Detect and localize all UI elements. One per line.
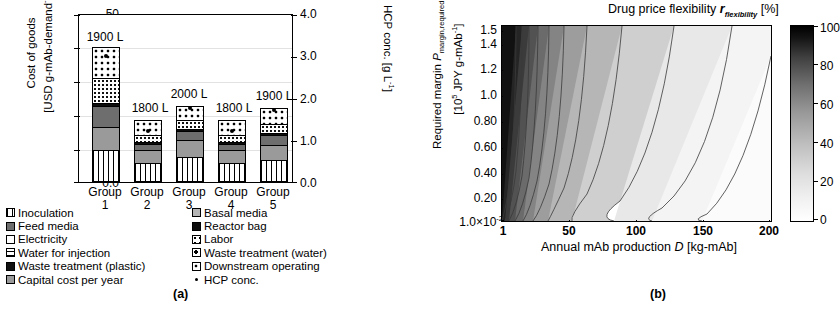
bar-4-segment-reactor-bag bbox=[219, 143, 245, 145]
legend-item-basal-media[interactable]: Basal media bbox=[192, 206, 406, 219]
bar-5-segment-inoculation bbox=[261, 161, 287, 181]
legend-label-waste-treatment-plastic: Waste treatment (plastic) bbox=[18, 260, 145, 272]
colorbar-tick-0: 0 bbox=[820, 213, 827, 227]
panel-b-caption: (b) bbox=[650, 287, 666, 301]
legend-item-waste-treatment-plastic[interactable]: Waste treatment (plastic) bbox=[6, 260, 192, 273]
panel-b-plot-area bbox=[501, 25, 772, 222]
legend-swatch-feed-media bbox=[6, 222, 15, 231]
panel-a-legend: Inoculation Basal media Feed media React… bbox=[6, 206, 406, 286]
title-subscript: flexibility bbox=[725, 10, 758, 19]
bar-1-segment-reactor-bag bbox=[93, 104, 119, 107]
bar-2-segment-inoculation bbox=[135, 164, 161, 181]
bar-annotation-group-3: 2000 L bbox=[171, 87, 208, 101]
legend-item-hcp-conc[interactable]: HCP conc. bbox=[192, 273, 406, 286]
bar-2-segment-feed-media bbox=[135, 145, 161, 151]
bar-3-segment-inoculation bbox=[177, 158, 203, 181]
bar-4-segment-electricity bbox=[219, 136, 245, 143]
b-x-tick-150: 150 bbox=[693, 224, 713, 238]
bar-3-segment-feed-media bbox=[177, 132, 203, 141]
y-tick-right-0: 0.0 bbox=[300, 176, 340, 190]
bar-group-3[interactable] bbox=[176, 106, 204, 182]
legend-label-labor: Labor bbox=[204, 233, 233, 245]
contour-field bbox=[502, 26, 771, 221]
panel-a-caption: (a) bbox=[173, 287, 188, 301]
bar-1-segment-electricity bbox=[93, 79, 119, 104]
bar-3-segment-reactor-bag bbox=[177, 130, 203, 132]
bar-5-segment-feed-media bbox=[261, 136, 287, 146]
legend-label-capital-cost: Capital cost per year bbox=[18, 274, 123, 286]
bar-1-segment-inoculation bbox=[93, 151, 119, 181]
legend-swatch-capital-cost bbox=[6, 275, 15, 284]
bar-annotation-group-1: 1900 L bbox=[87, 30, 124, 44]
y-tick-right-1: 1.0 bbox=[300, 134, 340, 148]
legend-item-electricity[interactable]: Electricity bbox=[6, 233, 192, 246]
legend-item-labor[interactable]: Labor bbox=[192, 233, 406, 246]
bar-group-1[interactable] bbox=[92, 47, 120, 182]
legend-label-hcp-conc: HCP conc. bbox=[204, 274, 259, 286]
bar-annotation-group-5: 1900 L bbox=[256, 89, 293, 103]
panel-b-contour-chart: Drug price flexibility rflexibility [%] … bbox=[420, 0, 837, 314]
colorbar-tick-40: 40 bbox=[820, 137, 833, 151]
y-axis-left-exponent: -1 bbox=[40, 0, 49, 3]
panel-b-title: Drug price flexibility rflexibility [%] bbox=[608, 2, 779, 19]
legend-label-waste-treatment-water: Waste treatment (water) bbox=[204, 247, 327, 259]
panel-a-y-axis-label-left: Cost of goods [USD g-mAb-demand-1] bbox=[25, 0, 55, 123]
legend-item-feed-media[interactable]: Feed media bbox=[6, 219, 192, 232]
legend-item-waste-treatment-water[interactable]: Waste treatment (water) bbox=[192, 246, 406, 259]
legend-label-basal-media: Basal media bbox=[204, 207, 267, 219]
colorbar-tick-60: 60 bbox=[820, 98, 833, 112]
y-tick-right-4: 4.0 bbox=[300, 7, 340, 21]
legend-label-downstream-operating: Downstream operating bbox=[204, 260, 320, 272]
legend-swatch-electricity bbox=[6, 235, 15, 244]
legend-item-capital-cost[interactable]: Capital cost per year bbox=[6, 273, 192, 286]
y-tick-right-2: 2.0 bbox=[300, 92, 340, 106]
bar-annotation-group-4: 1800 L bbox=[216, 101, 253, 115]
legend-swatch-downstream-operating bbox=[192, 262, 201, 271]
legend-item-water-for-injection[interactable]: Water for injection bbox=[6, 246, 192, 259]
legend-item-reactor-bag[interactable]: Reactor bag bbox=[192, 219, 406, 232]
b-x-tick-50: 50 bbox=[562, 224, 575, 238]
colorbar-tick-80: 80 bbox=[820, 59, 833, 73]
legend-label-inoculation: Inoculation bbox=[18, 207, 74, 219]
legend-swatch-basal-media bbox=[192, 208, 201, 217]
hcp-marker-group-2 bbox=[146, 129, 150, 133]
bar-annotation-group-2: 1800 L bbox=[132, 101, 169, 115]
bar-4-segment-capital-cost bbox=[219, 151, 245, 164]
b-y-tick-0p40: 0.40 bbox=[437, 166, 497, 180]
legend-swatch-labor bbox=[192, 235, 201, 244]
legend-label-reactor-bag: Reactor bag bbox=[204, 220, 267, 232]
legend-swatch-reactor-bag bbox=[192, 222, 201, 231]
legend-swatch-water-for-injection bbox=[6, 248, 15, 257]
bar-1-segment-capital-cost bbox=[93, 128, 119, 151]
legend-label-electricity: Electricity bbox=[18, 233, 67, 245]
hcp-marker-group-5 bbox=[272, 108, 276, 112]
bar-1-segment-downstream bbox=[93, 48, 119, 79]
legend-item-downstream-operating[interactable]: Downstream operating bbox=[192, 260, 406, 273]
bar-2-segment-capital-cost bbox=[135, 151, 161, 164]
legend-label-water-for-injection: Water for injection bbox=[18, 247, 110, 259]
legend-label-feed-media: Feed media bbox=[18, 220, 79, 232]
bar-group-5[interactable] bbox=[260, 108, 288, 182]
hcp-marker-group-4 bbox=[230, 129, 234, 133]
bar-4-segment-feed-media bbox=[219, 145, 245, 151]
b-x-tick-100: 100 bbox=[626, 224, 646, 238]
hcp-marker-group-1 bbox=[104, 54, 108, 58]
panel-a-bar-chart: Cost of goods [USD g-mAb-demand-1] HCP c… bbox=[0, 0, 420, 314]
bar-5-segment-electricity bbox=[261, 125, 287, 133]
b-y-tick-1p4: 1.4 bbox=[437, 37, 497, 51]
b-y-tick-0p80: 0.80 bbox=[437, 114, 497, 128]
legend-item-inoculation[interactable]: Inoculation bbox=[6, 206, 192, 219]
b-y-tick-min: 1.0×10-2 bbox=[443, 214, 503, 229]
bar-1-segment-feed-media bbox=[93, 107, 119, 128]
panel-b-x-axis-label: Annual mAb production D [kg-mAb] bbox=[479, 240, 799, 254]
bar-5-segment-capital-cost bbox=[261, 146, 287, 161]
b-y-tick-1p0: 1.0 bbox=[437, 88, 497, 102]
bar-5-segment-reactor-bag bbox=[261, 134, 287, 136]
y-axis-right-exponent: -1 bbox=[387, 82, 396, 89]
colorbar-tick-20: 20 bbox=[820, 175, 833, 189]
legend-swatch-waste-treatment-plastic bbox=[6, 262, 15, 271]
panel-a-y-axis-label-right: HCP conc. [g L-1] bbox=[381, 0, 398, 116]
b-y-tick-1p2: 1.2 bbox=[437, 62, 497, 76]
b-x-tick-1: 1 bbox=[500, 224, 507, 238]
